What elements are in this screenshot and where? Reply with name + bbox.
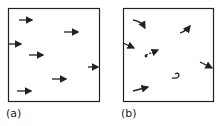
arrow-icon: [133, 87, 148, 91]
panel-a: [8, 9, 100, 102]
arrow-icon: [146, 50, 158, 55]
curl-icon: [172, 73, 179, 78]
panel-a-label: (a): [6, 107, 21, 120]
curved-arrow-icon: [180, 26, 190, 33]
arrow-icon: [200, 62, 212, 68]
panel-b-label: (b): [121, 107, 137, 120]
arrow-icon: [123, 43, 134, 48]
curved-arrow-icon: [133, 20, 145, 28]
flow-diagram: [0, 0, 222, 126]
panel-b: [123, 9, 214, 102]
